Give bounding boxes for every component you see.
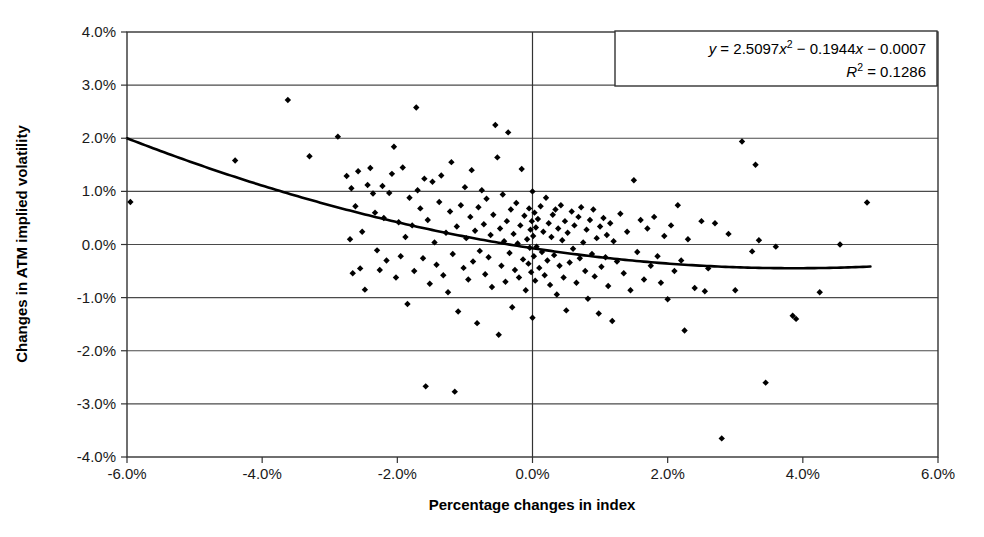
x-tick-label: -6.0% [107,465,146,482]
y-tick-label: 1.0% [82,182,116,199]
y-tick-label: 0.0% [82,236,116,253]
y-tick-labels: 4.0%3.0%2.0%1.0%0.0%-1.0%-2.0%-3.0%-4.0% [77,23,116,465]
eq-tail: − 0.0007 [863,40,926,57]
y-tick-label: -4.0% [77,448,116,465]
y-tick-label: -3.0% [77,395,116,412]
rsq-r: R [846,63,857,80]
y-axis-title: Changes in ATM implied volatility [13,125,30,363]
rsq-rest: = 0.1286 [863,63,926,80]
chart-page: -6.0%-4.0%-2.0%0.0%2.0%4.0%6.0% 4.0%3.0%… [0,0,984,537]
y-tick-label: 3.0% [82,76,116,93]
y-tick-label: -1.0% [77,289,116,306]
x-tick-label: 2.0% [651,465,685,482]
x-axis-title: Percentage changes in index [429,496,636,513]
x-tick-label: 6.0% [921,465,955,482]
y-tick-label: 4.0% [82,23,116,40]
y-tick-label: 2.0% [82,129,116,146]
equation-line: y = 2.5097x2 − 0.1944x − 0.0007 [708,38,926,57]
eq-mid: − 0.1944 [793,40,856,57]
equation-box: y = 2.5097x2 − 0.1944x − 0.0007 R2 = 0.1… [615,31,937,86]
scatter-chart: -6.0%-4.0%-2.0%0.0%2.0%4.0%6.0% 4.0%3.0%… [0,0,984,537]
eq-rest1: = 2.5097 [716,40,779,57]
y-tick-label: -2.0% [77,342,116,359]
x-tick-label: -2.0% [378,465,417,482]
x-tick-labels: -6.0%-4.0%-2.0%0.0%2.0%4.0%6.0% [107,465,955,482]
x-tick-label: 0.0% [515,465,549,482]
x-tick-label: 4.0% [786,465,820,482]
x-tick-label: -4.0% [243,465,282,482]
